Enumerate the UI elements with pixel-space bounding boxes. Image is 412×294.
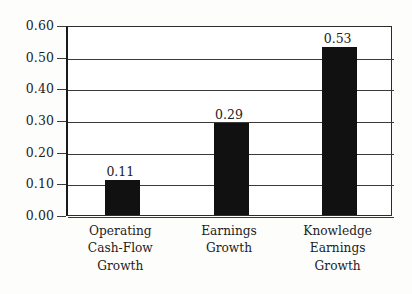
bar <box>322 47 357 215</box>
y-axis-tick-mark <box>57 26 66 27</box>
category-label-line: Knowledge <box>268 223 408 240</box>
gridline <box>68 217 394 218</box>
category-label-line: Growth <box>268 258 408 275</box>
bar-chart-figure: 0.600.500.400.300.200.100.00 0.110.290.5… <box>0 0 412 294</box>
y-axis-tick-mark <box>57 184 66 185</box>
bar-value-label: 0.29 <box>199 109 259 122</box>
y-axis-tick-label: 0.50 <box>4 52 54 65</box>
bar-value-label: 0.11 <box>90 166 150 179</box>
category-label-line: Earnings <box>268 240 408 257</box>
y-axis-tick-label: 0.40 <box>4 83 54 96</box>
y-axis-tick-mark <box>57 89 66 90</box>
bar-value-label: 0.53 <box>308 33 368 46</box>
y-axis-tick-label: 0.60 <box>4 20 54 33</box>
bar <box>105 180 140 215</box>
y-axis-tick-label: 0.30 <box>4 115 54 128</box>
y-axis-tick-label: 0.00 <box>4 210 54 223</box>
y-axis-tick-mark <box>57 121 66 122</box>
y-axis-tick-label: 0.10 <box>4 178 54 191</box>
y-axis-tick-mark <box>57 58 66 59</box>
y-axis-tick-label: 0.20 <box>4 147 54 160</box>
y-axis-tick-mark <box>57 216 66 217</box>
bar <box>214 123 249 215</box>
x-axis-category-label: KnowledgeEarningsGrowth <box>268 223 408 275</box>
y-axis-tick-mark <box>57 153 66 154</box>
category-label-line: Growth <box>50 258 190 275</box>
